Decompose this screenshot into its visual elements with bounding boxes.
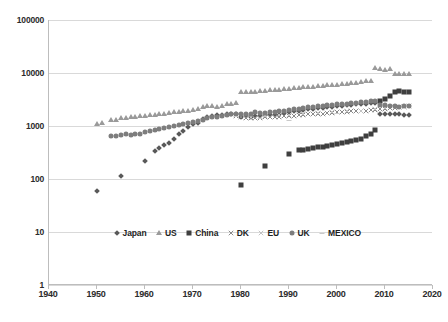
legend-label: MEXICO [328, 229, 361, 238]
data-point [287, 120, 292, 121]
x-tick-mark [288, 285, 289, 289]
x-tick-label: 1960 [124, 289, 164, 299]
x-tick-label: 1990 [268, 289, 308, 299]
circle-icon [288, 230, 295, 237]
legend-item-uk[interactable]: UK [288, 229, 310, 238]
x-tick-mark [336, 285, 337, 289]
data-point [258, 118, 263, 119]
legend-label: Japan [123, 229, 147, 238]
legend-marker-glyph [320, 233, 325, 234]
legend-marker-glyph [228, 231, 233, 236]
data-point [335, 113, 340, 114]
legend-item-eu[interactable]: EU [258, 229, 279, 238]
legend-label: China [195, 229, 218, 238]
chart-legend: JapanUSChinaDKEUUKMEXICO [113, 229, 361, 238]
x-tick-label: 1940 [28, 289, 68, 299]
x-tick-mark [384, 285, 385, 289]
legend-label: EU [267, 229, 279, 238]
legend-marker-glyph [259, 231, 264, 236]
triangle-icon [156, 230, 163, 237]
data-point [234, 116, 239, 117]
x-cross-icon [227, 230, 234, 237]
legend-label: UK [298, 229, 310, 238]
legend-marker-glyph [187, 231, 192, 236]
legend-marker-glyph [114, 230, 120, 236]
y-tick-label: 10000 [2, 68, 44, 78]
legend-item-us[interactable]: US [156, 229, 177, 238]
x-tick-label: 1950 [76, 289, 116, 299]
y-tick-label: 10 [2, 227, 44, 237]
y-tick-label: 100 [2, 174, 44, 184]
x-cross-light-icon [258, 230, 265, 237]
x-tick-mark [48, 285, 49, 289]
legend-item-dk[interactable]: DK [227, 229, 249, 238]
x-tick-label: 1980 [220, 289, 260, 299]
chart-root: 100000100001000100101 194019501960197019… [0, 0, 448, 322]
legend-item-japan[interactable]: Japan [113, 229, 147, 238]
dash-icon [319, 230, 326, 237]
legend-marker-glyph [156, 230, 162, 235]
x-tick-label: 2000 [316, 289, 356, 299]
x-tick-label: 2020 [412, 289, 448, 299]
x-tick-label: 1970 [172, 289, 212, 299]
x-tick-mark [240, 285, 241, 289]
diamond-icon [113, 230, 120, 237]
legend-marker-glyph [289, 231, 294, 236]
series-mexico [49, 20, 432, 284]
x-tick-mark [144, 285, 145, 289]
legend-item-china[interactable]: China [186, 229, 219, 238]
x-tick-label: 2010 [364, 289, 404, 299]
x-tick-mark [192, 285, 193, 289]
legend-label: DK [237, 229, 249, 238]
y-tick-label: 1000 [2, 121, 44, 131]
square-icon [186, 230, 193, 237]
legend-item-mexico[interactable]: MEXICO [319, 229, 361, 238]
legend-label: US [165, 229, 177, 238]
plot-area [48, 20, 432, 285]
x-tick-mark [432, 285, 433, 289]
y-tick-label: 100000 [2, 15, 44, 25]
x-tick-mark [96, 285, 97, 289]
